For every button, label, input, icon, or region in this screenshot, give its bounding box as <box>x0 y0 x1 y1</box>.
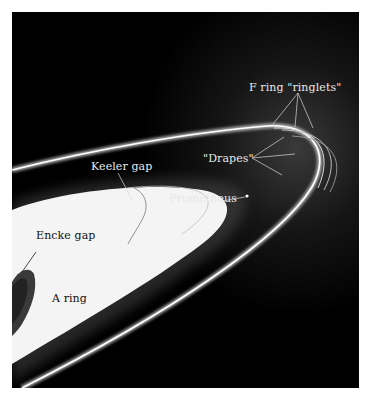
label-a-ring: A ring <box>52 292 87 305</box>
label-f-ring-ringlets: F ring "ringlets" <box>249 81 341 94</box>
label-prometheus: Prometheus <box>169 192 237 205</box>
saturn-rings-image: F ring "ringlets" "Drapes" Keeler gap Pr… <box>12 12 359 388</box>
label-encke-gap: Encke gap <box>36 229 96 242</box>
prometheus-moon <box>245 194 248 197</box>
label-keeler-gap: Keeler gap <box>91 160 152 173</box>
label-drapes: "Drapes" <box>203 152 254 165</box>
